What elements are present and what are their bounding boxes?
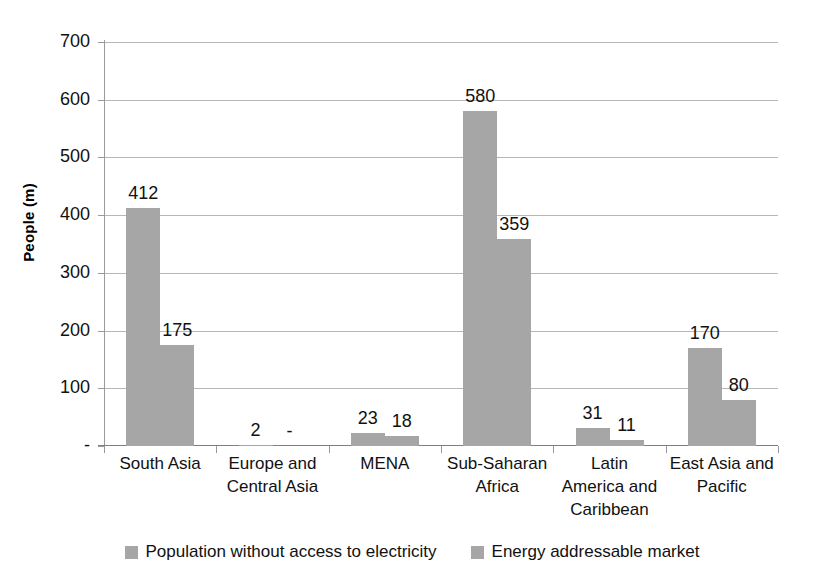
plot-area: 4121752-2318580359311117080: [104, 42, 778, 446]
x-category-label-line: Europe and: [208, 452, 336, 475]
y-tick-mark: [98, 42, 104, 43]
y-tick-label: -: [38, 436, 90, 454]
x-category-label-line: South Asia: [96, 452, 224, 475]
legend-swatch-icon: [471, 546, 484, 559]
bar[interactable]: [610, 440, 644, 446]
x-category-label: Europe andCentral Asia: [208, 452, 336, 498]
x-category-label: East Asia andPacific: [658, 452, 786, 498]
gridline: [104, 215, 778, 216]
bar-value-label: 18: [372, 412, 432, 430]
bar-value-label: 11: [597, 416, 657, 434]
x-category-label-line: Pacific: [658, 475, 786, 498]
y-tick-mark: [98, 157, 104, 158]
y-tick-mark: [98, 331, 104, 332]
x-category-label: MENA: [321, 452, 449, 475]
gridline: [104, 42, 778, 43]
chart-legend: Population without access to electricity…: [0, 542, 824, 562]
y-tick-label: 100: [38, 378, 90, 396]
y-tick-mark: [98, 388, 104, 389]
legend-swatch-icon: [125, 546, 138, 559]
bar[interactable]: [688, 348, 722, 446]
bar-value-label: 170: [675, 324, 735, 342]
gridline: [104, 388, 778, 389]
y-tick-label: 500: [38, 147, 90, 165]
bar-value-label: -: [260, 422, 320, 440]
bar[interactable]: [497, 239, 531, 446]
bar-value-label: 412: [113, 184, 173, 202]
bar[interactable]: [351, 433, 385, 446]
bar[interactable]: [722, 400, 756, 446]
x-category-label-line: America and: [545, 475, 673, 498]
gridline: [104, 157, 778, 158]
legend-item[interactable]: Population without access to electricity: [125, 542, 437, 562]
x-category-label-line: East Asia and: [658, 452, 786, 475]
bar[interactable]: [463, 111, 497, 446]
bar[interactable]: [160, 345, 194, 446]
x-category-label-line: Africa: [433, 475, 561, 498]
x-category-label-line: MENA: [321, 452, 449, 475]
gridline: [104, 273, 778, 274]
bar-value-label: 80: [709, 376, 769, 394]
x-category-label-line: Latin: [545, 452, 673, 475]
legend-item[interactable]: Energy addressable market: [471, 542, 700, 562]
x-axis-line: [98, 445, 778, 446]
bar[interactable]: [239, 445, 273, 446]
x-category-label: South Asia: [96, 452, 224, 475]
y-tick-mark: [98, 273, 104, 274]
y-axis-title: People (m): [20, 133, 37, 313]
y-tick-label: 600: [38, 90, 90, 108]
y-axis-line: [104, 40, 105, 446]
legend-label: Energy addressable market: [492, 542, 700, 562]
legend-label: Population without access to electricity: [146, 542, 437, 562]
x-category-label: Sub-SaharanAfrica: [433, 452, 561, 498]
bar-value-label: 175: [147, 321, 207, 339]
y-tick-mark: [98, 100, 104, 101]
bar[interactable]: [385, 436, 419, 446]
y-tick-label: 400: [38, 205, 90, 223]
y-tick-label: 200: [38, 321, 90, 339]
x-category-label-line: Caribbean: [545, 498, 673, 521]
bar-value-label: 580: [450, 87, 510, 105]
x-category-label: LatinAmerica andCaribbean: [545, 452, 673, 521]
x-category-label-line: Sub-Saharan: [433, 452, 561, 475]
x-category-label-line: Central Asia: [208, 475, 336, 498]
y-tick-label: 700: [38, 32, 90, 50]
y-tick-mark: [98, 215, 104, 216]
y-tick-label: 300: [38, 263, 90, 281]
gridline: [104, 100, 778, 101]
bar-value-label: 359: [484, 215, 544, 233]
bar-chart-figure: People (m) -100200300400500600700 412175…: [0, 0, 824, 586]
